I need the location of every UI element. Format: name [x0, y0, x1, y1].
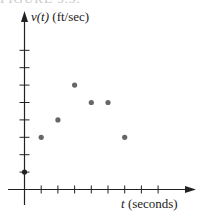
axis-ticks — [20, 50, 159, 193]
x-axis-arrow-icon — [185, 186, 196, 193]
data-point — [105, 100, 110, 105]
data-point — [39, 135, 44, 140]
y-axis-variable: v(t) — [31, 9, 49, 24]
y-axis-arrow-icon — [21, 11, 28, 22]
y-axis-label: v(t) (ft/sec) — [31, 9, 89, 25]
scatter-plot — [0, 0, 214, 221]
data-point — [89, 100, 94, 105]
data-points — [22, 83, 127, 175]
data-point — [72, 83, 77, 88]
x-axis-variable: t — [121, 196, 125, 211]
data-point — [122, 135, 127, 140]
x-axis-unit: (seconds) — [128, 196, 178, 211]
y-axis-unit: (ft/sec) — [52, 9, 89, 24]
data-point — [22, 170, 27, 175]
x-axis-label: t (seconds) — [121, 196, 178, 212]
axes — [8, 11, 196, 205]
data-point — [55, 117, 60, 122]
